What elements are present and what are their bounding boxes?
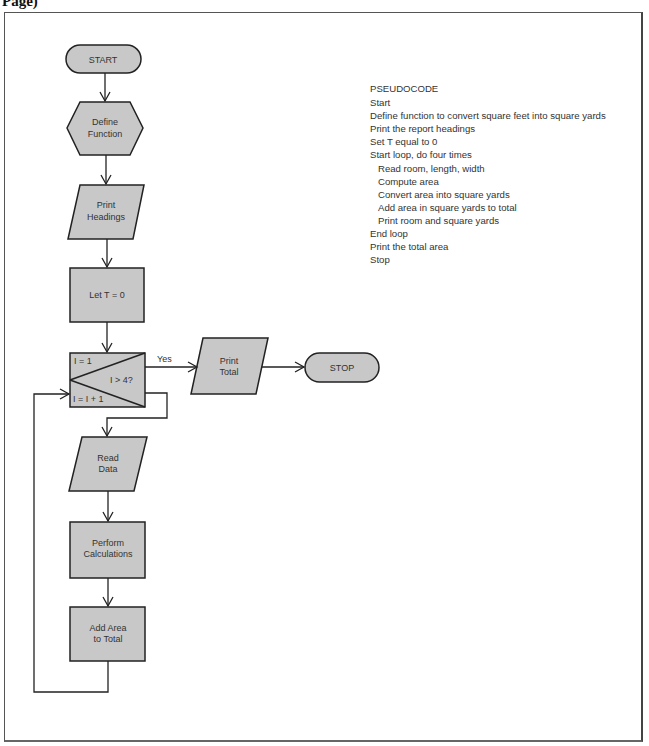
pseudocode-line: Add area in square yards to total xyxy=(370,201,606,214)
print-total-label-1: Print xyxy=(220,356,239,366)
add-area-label-1: Add Area xyxy=(89,623,126,633)
read-data-label-2: Data xyxy=(98,464,117,474)
pseudocode-line: Compute area xyxy=(370,175,606,188)
read-data-label-1: Read xyxy=(97,453,119,463)
start-label: START xyxy=(89,55,118,65)
add-area-label-2: to Total xyxy=(94,634,123,644)
pseudocode-block: PSEUDOCODE Start Define function to conv… xyxy=(370,82,606,266)
stop-label: STOP xyxy=(330,363,354,373)
pseudocode-line: Start xyxy=(370,96,606,109)
loop-condition-label: I > 4? xyxy=(110,375,133,385)
yes-label: Yes xyxy=(157,354,172,364)
print-headings-label-1: Print xyxy=(97,200,116,210)
perform-calculations-label-1: Perform xyxy=(92,538,124,548)
define-function-label-1: Define xyxy=(92,117,118,127)
pseudocode-line: Start loop, do four times xyxy=(370,148,606,161)
pseudocode-line: Define function to convert square feet i… xyxy=(370,109,606,122)
loop-init-label: I = 1 xyxy=(74,356,92,366)
pseudocode-line: Print the report headings xyxy=(370,122,606,135)
let-t-label: Let T = 0 xyxy=(89,290,124,300)
print-total-io xyxy=(191,338,268,394)
pseudocode-line: Set T equal to 0 xyxy=(370,135,606,148)
pseudocode-line: Convert area into square yards xyxy=(370,188,606,201)
pseudocode-line: End loop xyxy=(370,227,606,240)
print-total-label-2: Total xyxy=(219,367,238,377)
loop-increment-label: I = I + 1 xyxy=(73,394,104,404)
define-function-label-2: Function xyxy=(88,129,123,139)
pseudocode-line: Read room, length, width xyxy=(370,162,606,175)
print-headings-label-2: Headings xyxy=(87,212,126,222)
pseudocode-line: Print room and square yards xyxy=(370,214,606,227)
pseudocode-line: Print the total area xyxy=(370,240,606,253)
perform-calculations-label-2: Calculations xyxy=(83,549,133,559)
pseudocode-title: PSEUDOCODE xyxy=(370,82,606,95)
pseudocode-line: Stop xyxy=(370,253,606,266)
